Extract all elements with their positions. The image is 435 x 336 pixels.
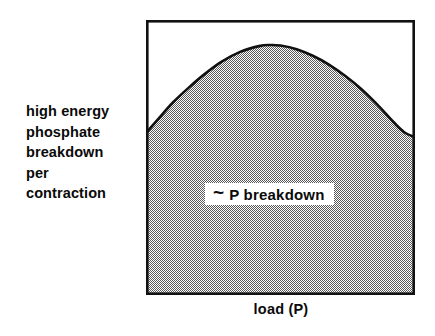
curve-annotation-label: ~ P breakdown bbox=[205, 183, 334, 205]
plot-svg bbox=[146, 20, 415, 295]
y-axis-label-line-1: high energy bbox=[26, 101, 144, 122]
y-axis-label-line-5: contraction bbox=[26, 183, 144, 204]
plot-area bbox=[146, 20, 415, 295]
x-axis-label: load (P) bbox=[146, 301, 416, 317]
curve-annotation-text: P breakdown bbox=[229, 186, 324, 203]
figure-container: high energy phosphate breakdown per cont… bbox=[0, 0, 435, 336]
y-axis-label-line-3: breakdown bbox=[26, 142, 144, 163]
y-axis-label: high energy phosphate breakdown per cont… bbox=[26, 101, 144, 204]
y-axis-label-line-4: per bbox=[26, 163, 144, 184]
filled-area-p-breakdown bbox=[146, 45, 415, 295]
y-axis-label-line-2: phosphate bbox=[26, 122, 144, 143]
